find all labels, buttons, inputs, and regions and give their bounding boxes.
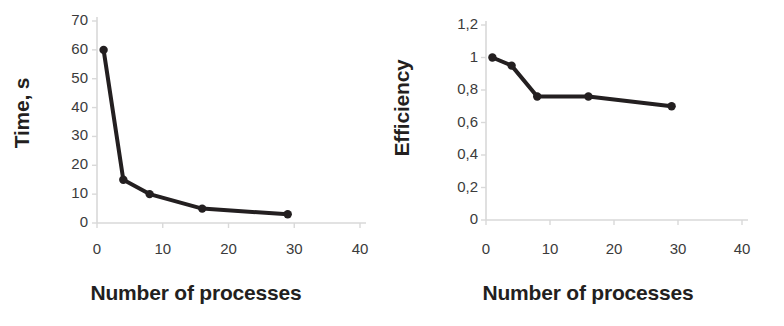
figure-two-line-charts: Time, s Number of processes 010203040506… <box>0 0 784 326</box>
y-axis-tick-label: 40 <box>18 98 88 115</box>
y-axis-tick-label: 0,8 <box>408 80 478 97</box>
data-point-marker <box>145 190 153 198</box>
y-axis-tick-label: 30 <box>18 126 88 143</box>
x-axis-tick-label: 0 <box>67 240 127 257</box>
y-axis-tick-label: 0,2 <box>408 178 478 195</box>
y-axis-tick-label: 70 <box>18 11 88 28</box>
y-axis-tick-label: 0,6 <box>408 113 478 130</box>
x-axis-title-processes-left: Number of processes <box>0 281 392 305</box>
x-axis-tick-label: 10 <box>520 240 580 257</box>
data-series-line <box>104 50 288 214</box>
data-point-marker <box>119 176 127 184</box>
y-axis-tick-label: 10 <box>18 184 88 201</box>
data-point-marker <box>667 102 675 110</box>
y-axis-tick-label: 50 <box>18 69 88 86</box>
chart-panel-efficiency: Efficiency Number of processes 00,20,40,… <box>392 0 784 326</box>
data-point-marker <box>198 204 206 212</box>
x-axis-tick-label: 10 <box>133 240 193 257</box>
data-point-marker <box>99 46 107 54</box>
chart-panel-time: Time, s Number of processes 010203040506… <box>0 0 392 326</box>
y-axis-tick-label: 1,2 <box>408 15 478 32</box>
data-series-line <box>492 58 671 107</box>
x-axis-tick-label: 20 <box>584 240 644 257</box>
x-axis-tick-label: 30 <box>648 240 708 257</box>
y-axis-tick-label: 20 <box>18 155 88 172</box>
x-axis-tick-label: 20 <box>199 240 259 257</box>
y-axis-tick-label: 0 <box>408 210 478 227</box>
y-axis-tick-label: 60 <box>18 40 88 57</box>
data-point-marker <box>507 61 515 69</box>
data-point-marker <box>584 92 592 100</box>
x-axis-tick-label: 0 <box>456 240 516 257</box>
x-axis-tick-label: 40 <box>712 240 772 257</box>
x-axis-tick-label: 30 <box>264 240 324 257</box>
x-axis-title-processes-right: Number of processes <box>392 281 784 305</box>
data-point-marker <box>284 210 292 218</box>
y-axis-tick-label: 1 <box>408 48 478 65</box>
data-point-marker <box>533 92 541 100</box>
y-axis-tick-label: 0 <box>18 213 88 230</box>
data-point-marker <box>488 53 496 61</box>
y-axis-tick-label: 0,4 <box>408 145 478 162</box>
x-axis-tick-label: 40 <box>330 240 390 257</box>
